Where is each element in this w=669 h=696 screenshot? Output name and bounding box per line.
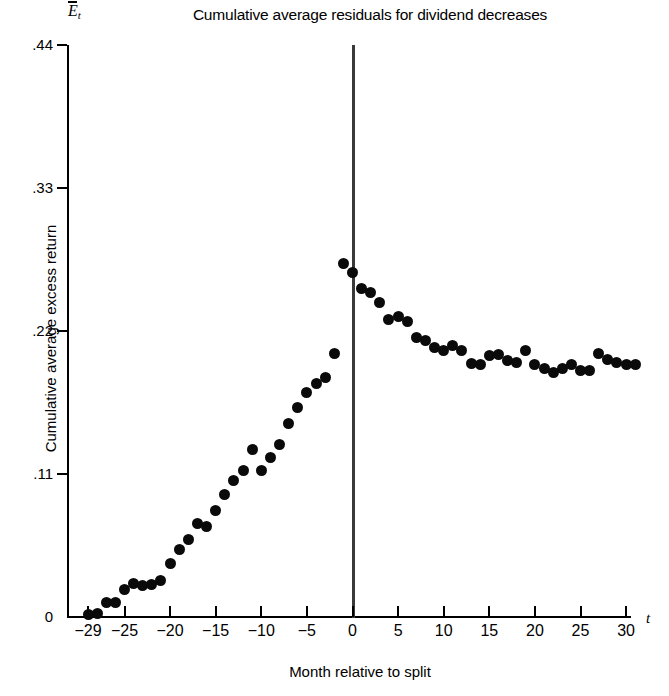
- data-point: [92, 608, 103, 619]
- data-point: [365, 287, 376, 298]
- data-point: [329, 348, 340, 359]
- data-point: [247, 444, 258, 455]
- data-point: [374, 297, 385, 308]
- data-point: [456, 345, 467, 356]
- data-point: [630, 359, 641, 370]
- data-point: [210, 505, 221, 516]
- data-point: [301, 387, 312, 398]
- data-point: [511, 357, 522, 368]
- data-point: [238, 465, 249, 476]
- data-point: [174, 544, 185, 555]
- chart-figure: Cumulative average residuals for dividen…: [0, 0, 669, 696]
- data-point: [183, 534, 194, 545]
- scatter-plot-area: [0, 0, 669, 696]
- data-point: [338, 258, 349, 269]
- data-point: [584, 365, 595, 376]
- data-point: [219, 489, 230, 500]
- data-point: [201, 521, 212, 532]
- data-point: [292, 402, 303, 413]
- x-axis-symbol: t: [646, 610, 650, 627]
- data-point: [265, 452, 276, 463]
- data-point: [228, 475, 239, 486]
- data-point: [320, 372, 331, 383]
- data-point: [475, 359, 486, 370]
- data-point: [402, 316, 413, 327]
- data-point: [347, 267, 358, 278]
- data-point: [520, 345, 531, 356]
- data-point: [283, 418, 294, 429]
- data-point: [110, 597, 121, 608]
- data-point: [155, 575, 166, 586]
- data-point: [165, 558, 176, 569]
- data-point: [256, 465, 267, 476]
- data-point: [274, 439, 285, 450]
